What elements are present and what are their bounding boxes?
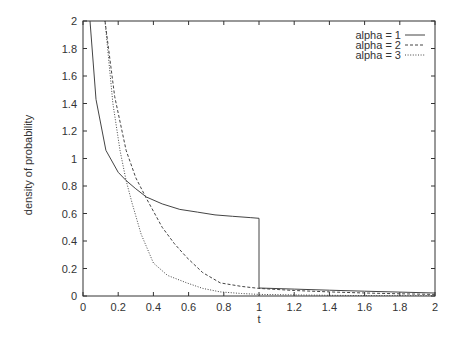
series-lines <box>90 21 435 296</box>
y-tick-label: 1.6 <box>62 70 77 82</box>
x-tick-label: 1 <box>256 301 262 313</box>
y-tick-label: 1 <box>71 153 77 165</box>
x-axis-label: t <box>257 313 260 325</box>
density-chart: 00.20.40.60.811.21.41.61.8200.20.40.60.8… <box>0 0 460 340</box>
x-tick-label: 0.4 <box>146 301 161 313</box>
y-axis-label: density of probability <box>22 114 34 215</box>
x-tick-label: 0.6 <box>181 301 196 313</box>
series-line-1 <box>90 21 435 293</box>
y-tick-label: 0.8 <box>62 180 77 192</box>
y-tick-label: 0 <box>71 290 77 302</box>
series-line-2 <box>105 21 435 294</box>
series-line-3 <box>105 21 435 296</box>
y-tick-label: 0.2 <box>62 263 77 275</box>
y-tick-label: 0.6 <box>62 208 77 220</box>
x-tick-label: 0 <box>80 301 86 313</box>
legend: alpha = 1alpha = 2alpha = 3 <box>355 29 425 61</box>
y-tick-label: 2 <box>71 15 77 27</box>
x-tick-label: 2 <box>432 301 438 313</box>
y-tick-label: 1.2 <box>62 125 77 137</box>
y-tick-label: 1.8 <box>62 43 77 55</box>
x-tick-label: 0.2 <box>111 301 126 313</box>
x-tick-label: 1.2 <box>287 301 302 313</box>
y-tick-label: 1.4 <box>62 98 77 110</box>
legend-label: alpha = 3 <box>355 49 401 61</box>
x-tick-label: 1.6 <box>357 301 372 313</box>
x-tick-label: 1.8 <box>392 301 407 313</box>
x-tick-label: 1.4 <box>322 301 337 313</box>
y-tick-label: 0.4 <box>62 235 77 247</box>
x-tick-label: 0.8 <box>216 301 231 313</box>
